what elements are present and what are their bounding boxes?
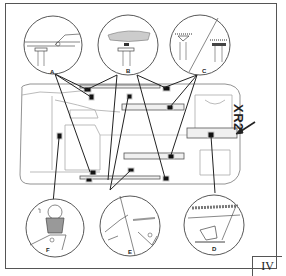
inset-e: E (100, 196, 160, 256)
inset-b: B (98, 15, 158, 75)
svg-text:B: B (126, 68, 131, 74)
inset-f: F (26, 199, 84, 257)
underbody-diagram: A B C F E (0, 0, 286, 276)
svg-text:A: A (50, 69, 55, 75)
svg-text:F: F (46, 247, 50, 253)
page-number: IV (252, 256, 282, 276)
svg-text:E: E (128, 249, 132, 255)
svg-text:D: D (212, 246, 217, 252)
inset-d: D (184, 195, 244, 255)
inset-a: A (24, 16, 82, 75)
model-label: XR2 (231, 104, 246, 131)
svg-text:C: C (202, 68, 207, 74)
inset-c: C (170, 15, 230, 75)
